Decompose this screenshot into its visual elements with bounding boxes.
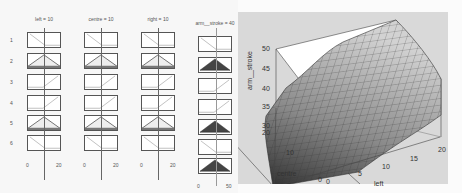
output-range-max: 50 [226,183,232,189]
input-label-left: left = 10 [35,16,53,22]
z-tick: 40 [262,85,270,92]
x-tick: 10 [382,163,390,170]
output-mf-plot [198,139,232,155]
y-tick: 20 [262,129,270,136]
output-mf-plot [198,99,232,115]
rule-number: 3 [10,79,13,85]
z-tick: 30 [262,122,270,129]
output-index-line [216,28,217,186]
centre-range-min: 0 [83,162,86,168]
output-mf-plot [198,57,232,73]
rule-number: 2 [10,58,13,64]
input-label-right: right = 10 [148,16,169,22]
rule-number: 1 [10,37,13,43]
y-tick: 10 [286,149,294,156]
x-tick: 15 [410,155,418,162]
z-axis-label: arm__stroke [246,51,253,90]
surface-viewer: 50 45 40 35 30 20 arm__stroke 10 0 centr… [238,12,448,184]
output-mf-plot [198,78,232,94]
right-range-min: 0 [140,162,143,168]
rule-number: 5 [10,120,13,126]
y-tick: 0 [318,176,322,183]
rule-number: 6 [10,140,13,146]
x-tick: 20 [438,146,446,153]
y-axis-label: centre [277,170,296,177]
x-tick: 5 [358,170,362,177]
aggregated-output-plot [198,158,232,174]
right-range-max: 20 [170,162,176,168]
output-mf-plot [198,36,232,52]
centre-index-line[interactable] [101,28,102,180]
x-tick: 0 [326,178,330,185]
left-range-min: 0 [26,162,29,168]
z-tick: 35 [262,103,270,110]
x-axis-label: left [374,180,383,187]
left-index-line[interactable] [44,28,45,180]
output-label-arm-stroke: arm__stroke = 40 [195,20,234,26]
rule-number: 4 [10,100,13,106]
z-tick: 50 [262,45,270,52]
rule-viewer: left = 10 centre = 10 right = 10 arm__st… [0,0,238,193]
right-index-line[interactable] [158,28,159,180]
centre-range-max: 20 [113,162,119,168]
input-label-centre: centre = 10 [88,16,113,22]
output-range-min: 0 [197,183,200,189]
z-tick: 45 [262,65,270,72]
left-range-max: 20 [56,162,62,168]
output-mf-plot [198,119,232,135]
